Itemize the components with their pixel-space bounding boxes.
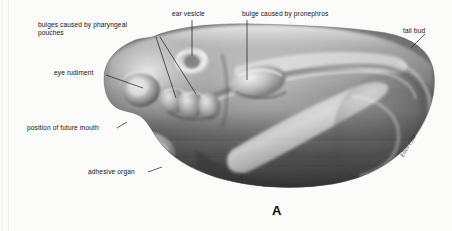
tail-shading — [334, 72, 450, 188]
figure-letter: A — [272, 203, 281, 218]
adhesive-organ-rim — [132, 166, 182, 176]
label-future-mouth: position of future mouth — [27, 124, 99, 132]
label-pharyngeal-pouches-line1: bulges caused by pharyngeal — [38, 21, 127, 28]
label-pharyngeal-pouches: bulges caused by pharyngeal pouches — [38, 21, 158, 38]
embryo-body — [98, 24, 450, 200]
leader-future-mouth — [117, 122, 127, 128]
eye-rudiment-highlight — [128, 78, 148, 96]
label-pharyngeal-pouches-line2: pouches — [38, 29, 64, 36]
label-tail-bud: tail bud — [403, 27, 425, 35]
ear-vesicle-inner — [184, 56, 200, 69]
label-adhesive-organ: adhesive organ — [88, 168, 135, 176]
figure-panel: bulges caused by pharyngeal pouches ear … — [0, 0, 452, 231]
label-pronephros: bulge caused by pronephros — [242, 10, 328, 18]
label-ear-vesicle: ear vesicle — [172, 10, 205, 18]
label-eye-rudiment: eye rudiment — [54, 69, 94, 77]
leader-adhesive-organ — [148, 167, 162, 172]
